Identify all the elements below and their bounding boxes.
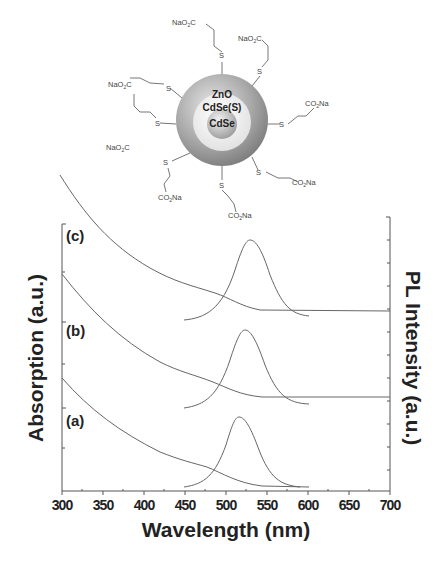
pl-b: [184, 330, 309, 408]
label-a: (a): [66, 412, 84, 429]
label-zno: ZnO: [212, 89, 232, 100]
svg-text:NaO2C: NaO2C: [108, 80, 132, 90]
y-axis-right-title: PL Intensity (a.u.): [402, 271, 425, 446]
svg-text:700: 700: [380, 497, 402, 513]
pl-a: [184, 417, 300, 487]
svg-text:450: 450: [175, 497, 197, 513]
svg-text:S: S: [219, 181, 224, 190]
pl-c: [184, 240, 309, 320]
y-axis-left-title: Absorption (a.u.): [24, 274, 47, 442]
svg-text:S: S: [219, 51, 224, 60]
svg-text:300: 300: [52, 497, 74, 513]
svg-text:NaO2C: NaO2C: [172, 18, 196, 28]
figure: ZnO CdSe(S) CdSe S S S S S S S S NaO2C N…: [0, 0, 442, 564]
svg-text:CO2Na: CO2Na: [228, 211, 252, 221]
svg-text:650: 650: [339, 497, 361, 513]
svg-text:CO2Na: CO2Na: [305, 99, 329, 109]
svg-text:600: 600: [298, 497, 320, 513]
label-cdse: CdSe: [209, 118, 235, 129]
svg-text:CO2Na: CO2Na: [292, 178, 316, 188]
label-cdses: CdSe(S): [203, 102, 242, 113]
svg-text:S: S: [257, 67, 262, 76]
svg-text:NaO2C: NaO2C: [106, 143, 130, 153]
svg-text:500: 500: [216, 497, 238, 513]
svg-text:NaO2C: NaO2C: [238, 34, 262, 44]
axes: [62, 217, 390, 495]
svg-text:S: S: [279, 120, 284, 129]
svg-text:S: S: [256, 168, 261, 177]
svg-text:S: S: [166, 84, 171, 93]
svg-text:S: S: [163, 158, 168, 167]
svg-text:CO2Na: CO2Na: [158, 193, 182, 203]
label-c: (c): [66, 227, 84, 244]
svg-text:400: 400: [134, 497, 156, 513]
svg-text:S: S: [155, 119, 160, 128]
svg-text:550: 550: [257, 497, 279, 513]
curves: [60, 175, 390, 487]
x-axis-title: Wavelength (nm): [142, 518, 310, 541]
svg-text:350: 350: [93, 497, 115, 513]
abs-a: [62, 378, 309, 487]
label-b: (b): [66, 322, 85, 339]
abs-c: [60, 175, 390, 311]
x-tick-labels: 300 350 400 450 500 550 600 650 700: [52, 497, 402, 513]
